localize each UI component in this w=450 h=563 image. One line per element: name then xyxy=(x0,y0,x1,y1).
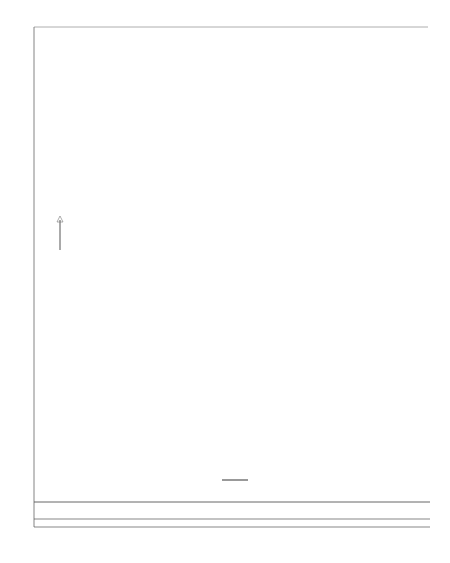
atomic-volume-chart xyxy=(0,0,450,563)
